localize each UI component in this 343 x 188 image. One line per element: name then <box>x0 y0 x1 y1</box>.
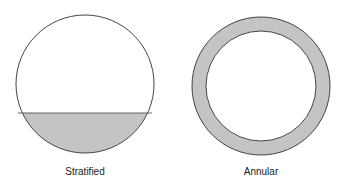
stratified-pipe <box>10 15 160 163</box>
annular-film <box>199 24 323 148</box>
liquid-layer <box>10 113 160 163</box>
film-inner-surface <box>206 31 316 141</box>
flow-pattern-diagram <box>0 0 343 188</box>
annular-pipe <box>192 17 330 155</box>
stratified-label: Stratified <box>35 166 135 177</box>
annular-label: Annular <box>211 166 311 177</box>
